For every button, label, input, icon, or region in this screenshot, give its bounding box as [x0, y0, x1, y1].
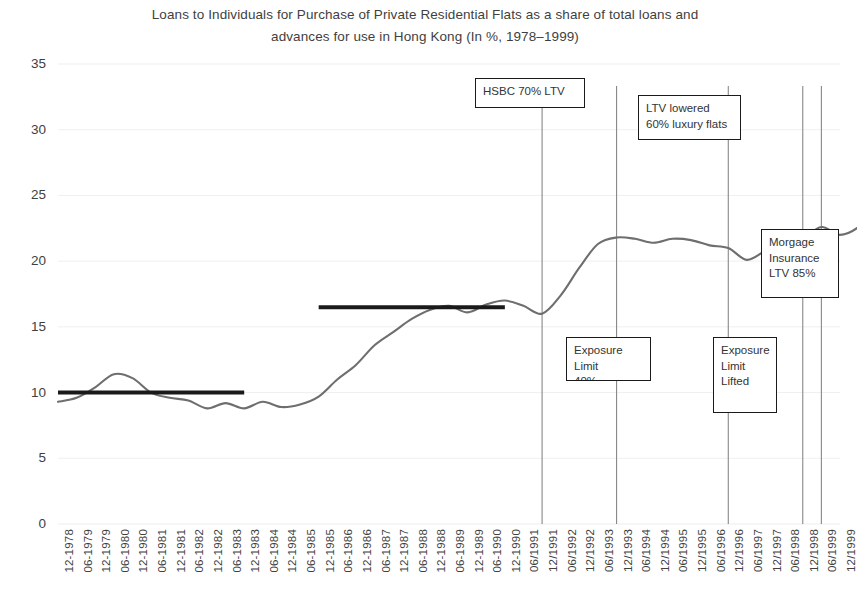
annotation-mortgage-insurance: Morgage Insurance LTV 85%	[761, 229, 839, 298]
annotation-exposure-limit-40: Exposure Limit 40%	[566, 337, 651, 381]
annotation-hsbc-70-ltv: HSBC 70% LTV	[475, 78, 585, 108]
annotation-exposure-limit-lifted: Exposure Limit Lifted	[713, 337, 777, 413]
annotation-ltv-lowered-60: LTV lowered 60% luxury flats	[638, 95, 741, 140]
